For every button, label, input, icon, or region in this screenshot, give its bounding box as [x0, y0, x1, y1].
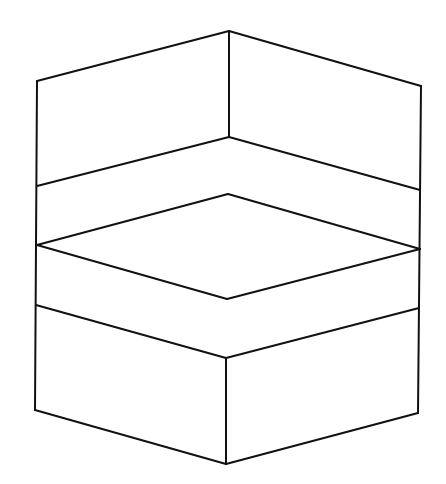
box-bottom-right-edge [226, 413, 418, 464]
diagram-canvas [0, 0, 446, 484]
rhombus-bottom-left-edge [37, 245, 227, 299]
box-bottom-left-edge [35, 410, 226, 464]
floor-left-edge [37, 137, 229, 186]
rhombus-top-right-edge [228, 194, 420, 249]
figure-edges [35, 31, 421, 464]
rhombus-bottom-right-edge [227, 249, 420, 299]
stacked-blocks-figure [0, 0, 446, 484]
rhombus-top-left-edge [37, 194, 228, 245]
left-outer-edge [35, 81, 37, 410]
floor-right-edge [229, 137, 420, 190]
box-top-left-edge [36, 305, 226, 358]
top-left-edge [37, 31, 229, 81]
top-right-edge [229, 31, 421, 86]
box-top-right-edge [226, 308, 419, 358]
